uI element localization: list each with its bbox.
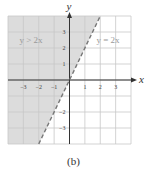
inequality-label: y > 2x	[20, 35, 44, 45]
x-tick-label: −1	[51, 84, 57, 90]
y-tick-label: −2	[59, 109, 65, 115]
x-axis-arrow-icon	[131, 78, 137, 83]
x-tick-label: −3	[20, 84, 26, 90]
y-tick-label: 2	[63, 45, 66, 51]
inequality-graph: xy −3−2−1123−3−2123 y > 2xy = 2x	[0, 0, 147, 176]
y-axis-label: y	[66, 0, 72, 12]
x-tick-label: 1	[83, 84, 86, 90]
x-tick-label: −2	[36, 84, 42, 90]
x-tick-label: 2	[99, 84, 102, 90]
x-tick-label: 3	[114, 84, 117, 90]
y-axis-arrow-icon	[67, 12, 72, 18]
y-tick-label: 3	[63, 29, 66, 35]
y-tick-label: 1	[63, 61, 66, 67]
equation-label: y = 2x	[96, 35, 120, 45]
x-axis-label: x	[138, 73, 144, 85]
figure-caption: (b)	[0, 155, 147, 167]
y-tick-label: −3	[59, 125, 65, 131]
